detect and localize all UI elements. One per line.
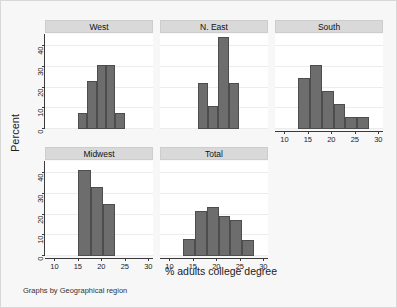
histogram-bar bbox=[97, 65, 106, 129]
panel-n-east: N. East bbox=[160, 20, 268, 129]
histogram-bar bbox=[322, 91, 334, 129]
y-axis-tick-label: 10 bbox=[36, 109, 45, 117]
y-axis-tick-label: 30 bbox=[36, 195, 45, 203]
x-axis-tick-label: 10 bbox=[165, 262, 173, 271]
x-axis-tick bbox=[78, 258, 79, 261]
gridline bbox=[160, 45, 268, 46]
histogram-bar bbox=[242, 240, 254, 256]
x-axis-tick bbox=[101, 258, 102, 261]
panel-total: Total bbox=[160, 147, 268, 256]
plot-area bbox=[45, 161, 153, 256]
x-axis-tick-label: 25 bbox=[236, 262, 244, 271]
x-axis-tick-label: 10 bbox=[280, 135, 288, 144]
histogram-bar bbox=[78, 170, 91, 256]
x-axis-tick-label: 15 bbox=[304, 135, 312, 144]
histogram-bar bbox=[230, 220, 242, 256]
x-axis-tick bbox=[216, 258, 217, 261]
x-axis-tick bbox=[148, 258, 149, 261]
histogram-bar bbox=[298, 78, 310, 129]
x-axis-tick-label: 15 bbox=[189, 262, 197, 271]
histogram-bar bbox=[183, 239, 195, 256]
gridline bbox=[275, 66, 383, 67]
plot-area bbox=[160, 34, 268, 129]
histogram-bar bbox=[115, 113, 124, 129]
histogram-bar bbox=[207, 207, 219, 256]
histogram-bar bbox=[219, 216, 231, 256]
plot-area bbox=[275, 34, 383, 129]
x-axis-tick-label: 10 bbox=[50, 262, 58, 271]
panel-south: South bbox=[275, 20, 383, 129]
gridline bbox=[275, 87, 383, 88]
panel-midwest: Midwest bbox=[45, 147, 153, 256]
y-axis-tick-label: 40 bbox=[36, 47, 45, 55]
x-axis-tick-label: 30 bbox=[259, 262, 267, 271]
x-axis: 1015202530 bbox=[275, 131, 383, 145]
x-axis-tick-label: 20 bbox=[97, 262, 105, 271]
histogram-bar bbox=[91, 187, 103, 256]
y-axis-tick-label: 40 bbox=[36, 174, 45, 182]
x-axis-tick bbox=[308, 131, 309, 134]
histogram-bar bbox=[103, 204, 116, 256]
y-axis-tick-label: 0 bbox=[36, 257, 45, 261]
y-axis-tick-label: 20 bbox=[36, 88, 45, 96]
x-axis-tick bbox=[331, 131, 332, 134]
y-axis-tick-label: 10 bbox=[36, 236, 45, 244]
histogram-bar bbox=[218, 37, 228, 129]
gridline bbox=[45, 172, 153, 173]
gridline bbox=[160, 87, 268, 88]
x-axis-tick bbox=[378, 131, 379, 134]
histogram-bar bbox=[208, 106, 218, 129]
histogram-bar bbox=[87, 81, 96, 129]
panel-west: West bbox=[45, 20, 153, 129]
gridline bbox=[45, 45, 153, 46]
x-axis-tick bbox=[193, 258, 194, 261]
x-axis-tick bbox=[54, 258, 55, 261]
histogram-bar bbox=[357, 117, 369, 129]
x-axis-tick bbox=[125, 258, 126, 261]
histogram-bar bbox=[195, 211, 207, 256]
panel-title: N. East bbox=[160, 20, 268, 33]
y-axis: 010203040 bbox=[23, 161, 45, 256]
x-axis-tick-label: 15 bbox=[74, 262, 82, 271]
x-axis-tick bbox=[284, 131, 285, 134]
panel-title: Midwest bbox=[45, 147, 153, 160]
histogram-bar bbox=[198, 83, 208, 129]
x-axis-tick-label: 20 bbox=[327, 135, 335, 144]
x-axis-spine bbox=[160, 258, 268, 259]
panel-title: Total bbox=[160, 147, 268, 160]
x-axis-tick-label: 25 bbox=[351, 135, 359, 144]
x-axis-tick bbox=[169, 258, 170, 261]
histogram-panel-figure: Percent % adults college degree Graphs b… bbox=[0, 0, 397, 308]
histogram-bar bbox=[78, 113, 87, 129]
x-axis-spine bbox=[45, 258, 153, 259]
x-axis-tick bbox=[263, 258, 264, 261]
y-axis-tick-label: 0 bbox=[36, 130, 45, 134]
x-axis-tick-label: 20 bbox=[212, 262, 220, 271]
x-axis: 1015202530 bbox=[45, 258, 153, 272]
x-axis-spine bbox=[275, 131, 383, 132]
gridline bbox=[160, 66, 268, 67]
gridline bbox=[160, 193, 268, 194]
y-axis-tick-label: 30 bbox=[36, 68, 45, 76]
histogram-bar bbox=[310, 65, 322, 129]
y-axis-tick-label: 20 bbox=[36, 215, 45, 223]
histogram-bar bbox=[229, 83, 239, 129]
histogram-bar bbox=[334, 104, 346, 129]
panel-title: South bbox=[275, 20, 383, 33]
gridline bbox=[160, 172, 268, 173]
x-axis-tick-label: 30 bbox=[374, 135, 382, 144]
plot-area bbox=[45, 34, 153, 129]
x-axis-tick bbox=[355, 131, 356, 134]
y-axis: 010203040 bbox=[23, 34, 45, 129]
x-axis-tick-label: 25 bbox=[121, 262, 129, 271]
panel-title: West bbox=[45, 20, 153, 33]
x-axis-tick-label: 30 bbox=[144, 262, 152, 271]
histogram-bar bbox=[345, 117, 357, 129]
plot-area bbox=[160, 161, 268, 256]
y-axis-title: Percent bbox=[9, 73, 21, 193]
histogram-bar bbox=[106, 65, 115, 129]
gridline bbox=[275, 45, 383, 46]
x-axis-tick bbox=[240, 258, 241, 261]
x-axis: 1015202530 bbox=[160, 258, 268, 272]
figure-note: Graphs by Geographical region bbox=[23, 286, 127, 295]
